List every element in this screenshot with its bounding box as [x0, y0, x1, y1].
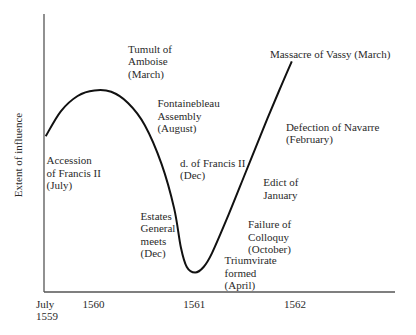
annotation-edict: Edict ofJanuary — [263, 176, 298, 201]
annotation-triumvirate: Triumvirateformed(April) — [225, 254, 277, 292]
x-tick-label: 1561 — [183, 298, 205, 310]
annotation-vassy: Massacre of Vassy (March) — [270, 48, 391, 61]
x-tick-label: 1562 — [284, 298, 306, 310]
annotation-navarre: Defection of Navarre(February) — [286, 121, 380, 147]
annotation-estates: EstatesGeneralmeets(Dec) — [141, 210, 176, 261]
annotation-colloquy: Failure ofColloquy(October) — [248, 218, 291, 256]
chart: Extent of influence July1559156015611562… — [0, 0, 416, 335]
x-tick-label: July1559 — [36, 298, 59, 322]
annotation-accession: Accessionof Francis II(July) — [47, 154, 102, 192]
y-axis-label: Extent of influence — [12, 113, 24, 197]
x-tick-labels: July1559156015611562 — [36, 298, 306, 322]
annotations: Accessionof Francis II(July)Tumult ofAmb… — [47, 43, 391, 292]
annotation-death-francis: d. of Francis II(Dec) — [180, 157, 246, 183]
x-tick-label: 1560 — [82, 298, 105, 310]
annotation-fontainebleau: FontainebleauAssembly(August) — [157, 97, 220, 135]
annotation-tumult: Tumult ofAmboise(March) — [128, 43, 172, 81]
